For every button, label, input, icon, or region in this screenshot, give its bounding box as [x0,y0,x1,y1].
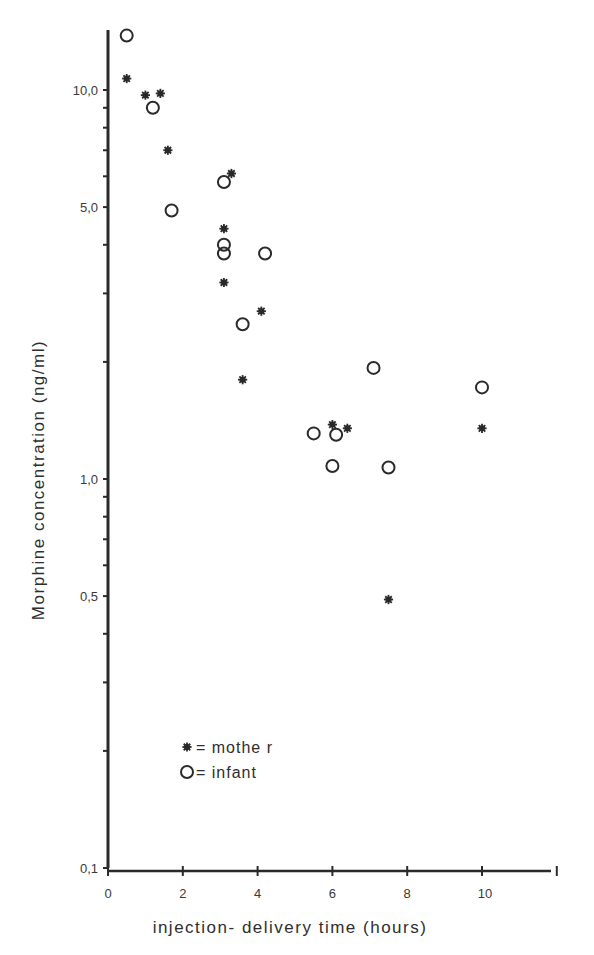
x-tick-label: 8 [404,886,411,901]
mother-data-point [141,91,150,100]
legend-label-infant: = infant [196,764,257,781]
y-tick-label: 1,0 [80,472,98,487]
legend-item-mother: = mothe r [182,739,273,756]
infant-data-point [330,429,342,441]
mother-data-point [477,424,486,433]
infant-data-point [147,102,159,114]
x-tick-label: 0 [104,886,111,901]
mother-data-point [122,74,131,83]
mother-data-point [219,224,228,233]
y-tick-label: 5,0 [80,200,98,215]
data-points [121,30,488,605]
infant-data-point [166,205,178,217]
infant-data-point [383,462,395,474]
infant-data-point [368,362,380,374]
mother-data-point [156,89,165,98]
infant-data-point [476,381,488,393]
mother-data-point [219,278,228,287]
mother-data-point [343,424,352,433]
infant-data-point [218,247,230,259]
y-tick-label: 0,5 [80,589,98,604]
infant-data-point [218,176,230,188]
asterisk-marker-icon [182,742,191,751]
mother-data-point [163,146,172,155]
x-tick-label: 6 [329,886,336,901]
infant-data-point [121,30,133,42]
asterisk-glyph [182,742,191,751]
infant-data-point [237,318,249,330]
open-circle-marker-icon [181,766,193,778]
x-tick-label: 4 [254,886,261,901]
infant-data-point [308,427,320,439]
mother-data-point [257,307,266,316]
x-axis-title: injection- delivery time (hours) [153,918,428,937]
legend-item-infant: = infant [181,764,257,781]
x-tick-label: 2 [179,886,186,901]
y-axis-title: Morphine concentration (ng/ml) [29,340,48,620]
mother-data-point [384,595,393,604]
mother-data-point [238,375,247,384]
scatter-chart: 0,10,51,05,010,00246810 Morphine concent… [0,0,594,955]
y-tick-label: 10,0 [73,83,98,98]
infant-data-point [326,460,338,472]
legend-label-mother: = mothe r [196,739,273,756]
y-tick-label: 0,1 [80,861,98,876]
axes: 0,10,51,05,010,00246810 [73,30,557,901]
x-tick-label: 10 [478,886,492,901]
legend: = mothe r = infant [181,739,273,781]
infant-data-point [259,247,271,259]
